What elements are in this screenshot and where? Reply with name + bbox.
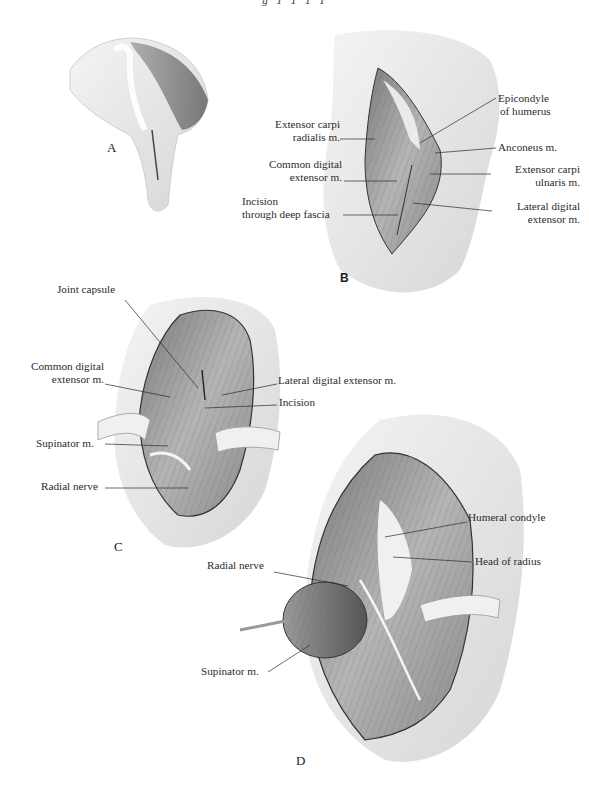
label-lateral-digital-extensor-c: Lateral digital extensor m. (278, 374, 396, 387)
panel-d-letter: D (296, 753, 305, 769)
panel-b-drawing (323, 30, 499, 292)
panel-a-letter: A (107, 140, 116, 156)
label-supinator-d: Supinator m. (201, 665, 259, 678)
label-radial-nerve-d: Radial nerve (207, 559, 264, 572)
label-radial-nerve-c: Radial nerve (41, 480, 98, 493)
label-lateral-digital-extensor-b: Lateral digital extensor m. (492, 200, 580, 226)
label-supinator-c: Supinator m. (36, 437, 94, 450)
panel-d-drawing (240, 414, 524, 761)
label-head-of-radius: Head of radius (475, 555, 541, 568)
label-anconeus: Anconeus m. (498, 141, 557, 154)
label-incision-deep-fascia: Incision through deep fascia (242, 195, 330, 221)
label-common-digital-extensor-c: Common digital extensor m. (12, 360, 104, 386)
panel-b-letter: B (340, 271, 349, 285)
label-humeral-condyle: Humeral condyle (468, 511, 545, 524)
panel-c-drawing (98, 297, 280, 547)
panel-a-drawing (70, 38, 208, 211)
label-incision-c: Incision (279, 396, 315, 409)
label-epicondyle: Epicondyle of humerus (498, 92, 551, 118)
label-extensor-carpi-radialis: Extensor carpi radialis m. (262, 118, 340, 144)
panel-c-letter: C (114, 539, 123, 555)
label-common-digital-extensor-b: Common digital extensor m. (254, 158, 342, 184)
label-joint-capsule: Joint capsule (57, 283, 115, 296)
label-extensor-carpi-ulnaris: Extensor carpi ulnaris m. (492, 163, 580, 189)
